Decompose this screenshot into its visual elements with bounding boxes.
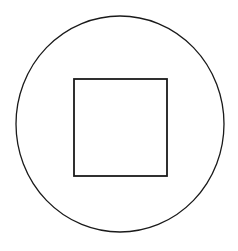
outer-circle <box>16 16 224 232</box>
inner-square <box>74 79 167 176</box>
diagram-canvas <box>0 0 238 251</box>
diagram <box>0 0 238 251</box>
